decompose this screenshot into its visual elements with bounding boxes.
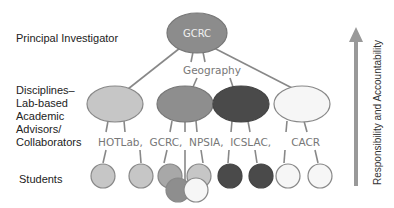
advisor-node-light (87, 86, 143, 122)
advisor-node-mid (157, 86, 213, 122)
advisor-node-dark (213, 86, 269, 122)
labs-row: HOTLab, GCRC, NPSIA, ICSLAC, CACR (98, 136, 320, 148)
responsibility-arrow (349, 27, 363, 186)
student-1 (91, 164, 115, 188)
student-nodes (91, 164, 332, 202)
student-10 (308, 164, 332, 188)
student-2 (129, 164, 153, 188)
advisor-node-white (274, 86, 330, 122)
student-8 (249, 164, 273, 188)
root-node-label: GCRC (183, 28, 211, 39)
hierarchy-diagram: GCRC Geography HOTLab, GCRC, NPSIA, ICSL… (0, 0, 394, 208)
student-6 (184, 178, 208, 202)
student-9 (276, 164, 300, 188)
arrow-label: Responsibility and Accountability (372, 40, 383, 185)
student-7 (218, 164, 242, 188)
discipline-label: Geography (183, 64, 241, 76)
